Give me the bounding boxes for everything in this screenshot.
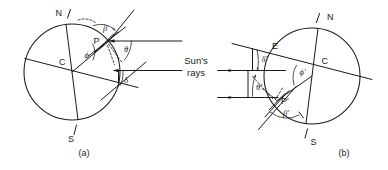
horizon-tangent-b <box>259 86 297 130</box>
sun-rays-label-line2: rays <box>187 67 205 78</box>
label-point-p-prime-b: P′ <box>281 96 289 106</box>
south-tick-b <box>305 129 308 138</box>
north-tick-b <box>317 14 320 23</box>
label-north-pole-a: N <box>56 8 63 18</box>
angle-arc-delta-prime-b <box>257 50 258 70</box>
south-tick-a <box>74 125 77 135</box>
panel-b: N S C P′ E δ′ θ′ ϕ′ β′ (b) <box>218 12 372 158</box>
label-angle-beta-prime-b: β′ <box>282 108 289 118</box>
panel-a: N S C P β θ ϕ δ (a) <box>24 8 182 159</box>
label-point-e-b: E <box>272 41 278 51</box>
label-center-a: C <box>59 57 66 67</box>
label-angle-delta-prime-b: δ′ <box>262 54 268 64</box>
beta-ray-a <box>109 10 135 42</box>
label-angle-theta-a: θ <box>124 44 128 54</box>
label-angle-beta-a: β <box>102 23 108 33</box>
north-tick-a <box>68 10 71 19</box>
figure-container: N S C P β θ ϕ δ (a) Sun's rays <box>0 0 388 170</box>
label-center-b: C <box>322 56 329 66</box>
label-south-pole-b: S <box>311 137 317 147</box>
angle-arc-phi-prime-b <box>293 66 297 86</box>
label-angle-phi-prime-b: ϕ′ <box>300 67 306 77</box>
dashed-arc-north-a <box>78 19 96 23</box>
sun-rays-label-line1: Sun's <box>184 55 208 66</box>
caption-b: (b) <box>339 148 350 158</box>
label-north-pole-b: N <box>327 12 334 22</box>
label-angle-phi-a: ϕ <box>85 50 90 60</box>
caption-a: (a) <box>79 148 90 158</box>
label-south-pole-a: S <box>68 134 74 144</box>
label-point-p-a: P <box>94 36 100 46</box>
earth-sun-geometry-diagram: N S C P β θ ϕ δ (a) Sun's rays <box>0 0 388 170</box>
sun-rays-label: Sun's rays <box>184 55 208 79</box>
beta-prime-tick-b <box>299 112 304 118</box>
label-angle-theta-prime-b: θ′ <box>256 82 262 92</box>
radius-cp-a <box>72 42 109 73</box>
